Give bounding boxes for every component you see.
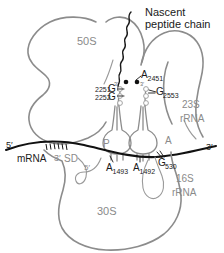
subunit-30s-label: 30S [97, 205, 117, 217]
sd-label: SD [64, 153, 78, 164]
nascent-peptide-label-line2: peptide chain [145, 18, 210, 30]
c-residue-a2 [144, 94, 149, 99]
rrna-23s-label-line2: rRNA [180, 113, 205, 124]
a2451-residue-dot [135, 80, 140, 85]
diagram-canvas: 3′ 3′ N [0, 0, 224, 253]
residue-g2553-label: G 2553 [156, 86, 179, 99]
nascent-peptide-chain-line [118, 12, 131, 90]
trna-5prime-30s-label: 5′ [84, 163, 90, 172]
residue-a2451-label: A 2451 [141, 69, 163, 82]
sd-hatch-2 [50, 144, 51, 150]
sd-hatch-1 [46, 144, 47, 150]
c-residue-p3 [118, 101, 123, 106]
g2553-number: 2553 [163, 92, 179, 99]
rrna-23s-label-line1: 23S [182, 99, 200, 110]
a1492-number: 1492 [140, 168, 156, 175]
g530-number: 530 [165, 163, 177, 170]
peptidyl-center-dot [124, 80, 129, 85]
nascent-peptide-label-line1: Nascent [145, 6, 185, 18]
c-residue-a1 [144, 87, 149, 92]
mrna-3prime-left-label: 3′ [54, 153, 61, 163]
rrna-16s-label-line2: rRNA [172, 187, 197, 198]
trna-a-3prime-label: 3′ [140, 81, 144, 87]
mrna-label: mRNA [17, 153, 47, 164]
rrna-16s-label-line1: 16S [176, 173, 194, 184]
g2553-leader [149, 90, 156, 92]
a1493-number: 1493 [113, 168, 129, 175]
c-residue-a3 [144, 101, 149, 106]
residue-a1493-label: A 1493 [106, 162, 128, 175]
residue-g530-label: G 530 [158, 157, 177, 170]
subunit-50s-label: 50S [77, 35, 97, 47]
residue-a1492-label: A 1492 [133, 162, 155, 175]
a2451-number: 2451 [148, 75, 164, 82]
50s-internal-cleft-line [104, 60, 113, 84]
site-a-label: A [165, 135, 172, 146]
sd-hatch-6 [66, 144, 67, 150]
site-p-label: P [103, 138, 110, 149]
mrna-5prime-label: 5′ [6, 140, 13, 150]
ribosome-diagram: 3′ 3′ N [0, 0, 224, 253]
g2252-base: G [108, 91, 116, 102]
mrna-3prime-right-label: 3′ [206, 142, 213, 152]
